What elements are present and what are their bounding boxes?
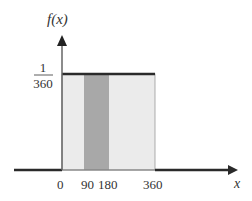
- x-tick-0: 0: [57, 177, 64, 192]
- y-tick-numerator: 1: [40, 60, 47, 75]
- x-tick-360: 360: [143, 177, 163, 192]
- y-axis-label: f(x): [47, 11, 68, 28]
- x-axis-label: x: [233, 176, 241, 191]
- uniform-density-chart: f(x) 1 360 0 90 180 360 x: [0, 0, 252, 201]
- highlighted-interval: [84, 75, 109, 170]
- x-axis-arrow-icon: [228, 165, 238, 175]
- y-tick-denominator: 360: [33, 76, 53, 91]
- y-axis-arrow-icon: [57, 35, 67, 46]
- x-tick-180: 180: [98, 177, 118, 192]
- x-tick-90: 90: [81, 177, 94, 192]
